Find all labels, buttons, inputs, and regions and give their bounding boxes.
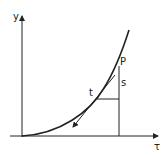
diagram-canvas: y τ P t s [0, 0, 167, 155]
x-axis-label: τ [154, 141, 160, 152]
segment-s-label: s [121, 77, 126, 88]
y-axis-label: y [13, 11, 19, 22]
tangent-line [73, 75, 115, 127]
point-p-label: P [120, 56, 126, 67]
curve [22, 30, 129, 136]
point-t-label: t [89, 87, 93, 98]
